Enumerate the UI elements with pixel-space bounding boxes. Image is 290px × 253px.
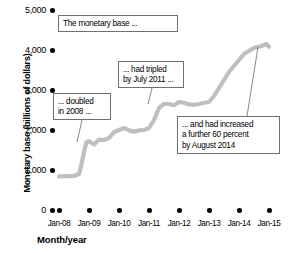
leader-line-increased xyxy=(247,47,258,116)
callout-tripled: ... had tripled by July 2011 ... xyxy=(118,61,184,88)
callout-increased: ... and had increased a further 60 perce… xyxy=(177,116,280,154)
callout-doubled: ... doubled in 2008 ... xyxy=(53,93,111,120)
leader-line-tripled xyxy=(148,88,152,104)
leader-line-doubled xyxy=(77,120,82,142)
monetary-base-chart: Monetary base (billions of dollars) Mont… xyxy=(0,0,290,253)
callout-monetary-base: The monetary base ... xyxy=(58,15,178,32)
